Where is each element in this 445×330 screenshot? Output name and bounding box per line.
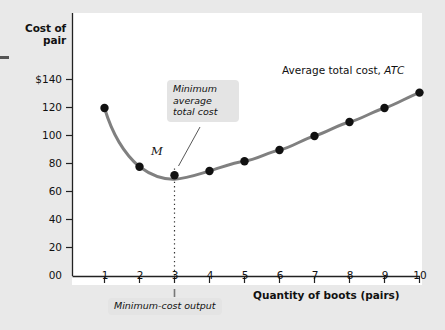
callout-leader-line	[179, 127, 201, 166]
callout-line-1: Minimum	[173, 83, 233, 95]
data-point	[100, 104, 108, 112]
x-tick-label-1: 1	[95, 269, 115, 281]
y-axis-title: Cost of pair	[14, 22, 66, 46]
x-axis-ticks	[105, 277, 420, 284]
x-tick-label-2: 2	[130, 269, 150, 281]
data-point-markers	[100, 88, 423, 179]
callout-minimum-cost-output: Minimum-cost output	[108, 298, 222, 315]
x-tick-label-6: 6	[270, 269, 290, 281]
x-tick-label-4: 4	[200, 269, 220, 281]
series-label-italic: ATC	[384, 64, 404, 76]
y-tick-label-120: 120	[22, 101, 62, 113]
x-tick-label-10: 10	[410, 269, 430, 281]
data-point	[135, 163, 143, 171]
atc-curve	[105, 93, 420, 180]
y-axis-title-line1: Cost of	[14, 22, 66, 34]
callout-minimum-average-total-cost: Minimum average total cost	[167, 80, 239, 122]
data-point	[205, 167, 213, 175]
callout-line-3: total cost	[173, 106, 233, 118]
y-tick-label-140: $140	[22, 73, 62, 85]
y-tick-label-100: 100	[22, 129, 62, 141]
y-axis-title-line2: pair	[14, 34, 66, 46]
series-label-atc: Average total cost, ATC	[282, 64, 404, 76]
data-point	[380, 104, 388, 112]
callout-line-2: average	[173, 95, 233, 107]
data-point	[170, 171, 178, 179]
data-point	[240, 157, 248, 165]
x-tick-label-7: 7	[305, 269, 325, 281]
x-tick-label-8: 8	[340, 269, 360, 281]
x-tick-label-0: 0	[42, 269, 62, 281]
x-tick-label-3: 3	[165, 269, 185, 281]
x-axis-title: Quantity of boots (pairs)	[253, 289, 400, 301]
figure-container: Cost of pair $140 120 100 80 60 40 20 0 …	[0, 0, 445, 330]
data-point	[345, 118, 353, 126]
y-tick-label-40: 40	[22, 213, 62, 225]
series-label-prefix: Average total cost,	[282, 64, 384, 76]
y-tick-label-60: 60	[22, 185, 62, 197]
y-axis-ticks	[66, 80, 73, 248]
y-tick-label-80: 80	[22, 157, 62, 169]
x-tick-label-9: 9	[375, 269, 395, 281]
y-tick-label-20: 20	[22, 241, 62, 253]
data-point	[415, 88, 423, 96]
x-tick-label-5: 5	[235, 269, 255, 281]
data-point	[310, 132, 318, 140]
data-point	[275, 146, 283, 154]
point-m-label: M	[151, 144, 163, 158]
